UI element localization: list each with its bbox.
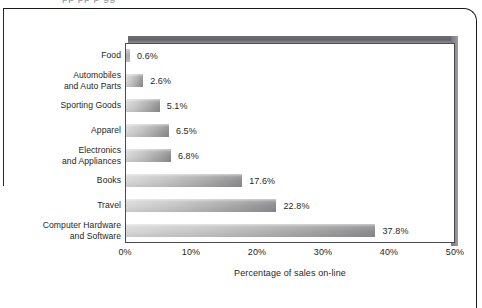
bar-row: Books17.6% xyxy=(0,168,482,193)
bar-row: Electronics and Appliances6.8% xyxy=(0,143,482,168)
bar-container: 2.6% xyxy=(126,74,171,87)
bar-container: 17.6% xyxy=(126,174,275,187)
bar xyxy=(126,199,276,212)
plot-bevel-top xyxy=(128,36,458,43)
category-label: Apparel xyxy=(0,125,121,135)
bar xyxy=(126,224,375,237)
bar-container: 6.5% xyxy=(126,124,197,137)
category-label: Automobiles and Auto Parts xyxy=(0,70,121,91)
category-label: Sporting Goods xyxy=(0,100,121,110)
x-tick-label: 40% xyxy=(380,247,398,257)
x-axis-ticks: 0%10%20%30%40%50% xyxy=(0,247,482,261)
bar-row: Automobiles and Auto Parts2.6% xyxy=(0,68,482,93)
x-tick-label: 30% xyxy=(314,247,332,257)
bar-row: Sporting Goods5.1% xyxy=(0,93,482,118)
bar xyxy=(126,124,169,137)
bar xyxy=(126,149,171,162)
bar xyxy=(126,74,143,87)
x-tick-label: 10% xyxy=(182,247,200,257)
bar-value-label: 6.5% xyxy=(176,126,197,136)
bar-container: 37.8% xyxy=(126,224,409,237)
bar-row: Computer Hardware and Software37.8% xyxy=(0,218,482,243)
category-label: Food xyxy=(0,50,121,60)
cropped-caption-text: pp pp p gg xyxy=(62,0,116,3)
x-tick-label: 50% xyxy=(446,247,464,257)
bar-container: 22.8% xyxy=(126,199,310,212)
bar-container: 5.1% xyxy=(126,99,188,112)
bar-value-label: 2.6% xyxy=(150,76,171,86)
bar xyxy=(126,99,160,112)
bar-row: Travel22.8% xyxy=(0,193,482,218)
bar-value-label: 37.8% xyxy=(382,226,408,236)
bar-rows: Food0.6%Automobiles and Auto Parts2.6%Sp… xyxy=(0,43,482,243)
bar-container: 6.8% xyxy=(126,149,199,162)
x-tick-label: 0% xyxy=(118,247,131,257)
category-label: Electronics and Appliances xyxy=(0,145,121,166)
x-tick-label: 20% xyxy=(248,247,266,257)
bar-value-label: 17.6% xyxy=(249,176,275,186)
category-label: Computer Hardware and Software xyxy=(0,220,121,241)
bar xyxy=(126,174,242,187)
category-label: Travel xyxy=(0,200,121,210)
bar-row: Apparel6.5% xyxy=(0,118,482,143)
bar-value-label: 6.8% xyxy=(178,151,199,161)
x-axis-title: Percentage of sales on-line xyxy=(125,268,455,278)
cropped-caption-sliver: pp pp p gg xyxy=(0,0,482,7)
category-label: Books xyxy=(0,175,121,185)
bar-value-label: 22.8% xyxy=(283,201,309,211)
bar-row: Food0.6% xyxy=(0,43,482,68)
bar-value-label: 5.1% xyxy=(167,101,188,111)
bar-container: 0.6% xyxy=(126,49,158,62)
bar xyxy=(126,49,130,62)
bar-value-label: 0.6% xyxy=(137,51,158,61)
